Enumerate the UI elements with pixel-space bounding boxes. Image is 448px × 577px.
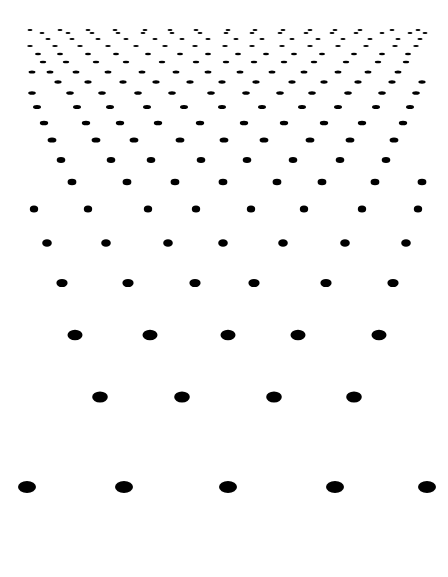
dot <box>306 137 315 142</box>
dot <box>92 137 101 142</box>
dot <box>192 206 200 213</box>
dot <box>143 29 148 31</box>
dot <box>260 137 269 142</box>
dot <box>395 71 402 74</box>
dot <box>197 157 206 163</box>
dot <box>335 71 342 74</box>
dot <box>143 105 151 109</box>
dot <box>189 279 200 287</box>
dot-row <box>30 206 422 213</box>
dot <box>101 239 111 247</box>
dot <box>320 121 328 126</box>
dot <box>249 45 255 47</box>
dot-row <box>40 121 407 126</box>
dot <box>269 71 276 74</box>
dot <box>221 330 236 340</box>
dot <box>168 29 173 31</box>
dot <box>152 38 157 40</box>
dot <box>194 29 199 31</box>
dot <box>63 61 69 64</box>
dot-row <box>27 45 419 47</box>
dot <box>380 32 385 34</box>
dot <box>226 29 231 31</box>
dot <box>170 32 175 34</box>
dot <box>27 45 33 47</box>
dot <box>218 239 228 247</box>
dot <box>133 45 139 47</box>
dot <box>105 71 112 74</box>
dot <box>57 157 66 163</box>
dot <box>106 105 114 109</box>
dot <box>289 38 294 40</box>
dot <box>84 80 91 83</box>
dot <box>154 121 162 126</box>
dot <box>152 80 159 83</box>
dot <box>240 121 248 126</box>
dot <box>423 32 428 34</box>
dot <box>418 80 425 83</box>
dot <box>319 53 325 55</box>
dot <box>307 45 313 47</box>
dot <box>408 32 413 34</box>
dot <box>365 71 372 74</box>
dot <box>326 481 344 493</box>
dot <box>54 80 61 83</box>
dot <box>186 80 193 83</box>
dot <box>90 32 95 34</box>
dot <box>363 45 369 47</box>
dot-row <box>28 91 420 95</box>
dot <box>218 80 225 83</box>
dot-row <box>18 481 436 493</box>
dot <box>351 53 357 55</box>
dot <box>68 179 77 186</box>
dot <box>205 71 212 74</box>
dot <box>123 61 129 64</box>
dot <box>278 32 283 34</box>
dot <box>222 45 228 47</box>
dot <box>243 157 252 163</box>
dot <box>250 32 255 34</box>
dot <box>367 38 372 40</box>
dot <box>42 239 52 247</box>
dot <box>119 80 126 83</box>
dot <box>86 29 91 31</box>
dot <box>130 137 139 142</box>
dot <box>56 279 67 287</box>
dot <box>105 45 111 47</box>
dot <box>333 29 338 31</box>
dot-row <box>56 279 398 287</box>
dot <box>35 53 41 55</box>
dot <box>318 179 327 186</box>
dot <box>315 38 320 40</box>
dot-row <box>35 53 411 55</box>
dot-row <box>28 29 421 31</box>
dot-row <box>29 71 402 74</box>
dot <box>73 71 80 74</box>
dot <box>375 61 381 64</box>
dot <box>52 45 58 47</box>
dot <box>418 179 427 186</box>
dot <box>308 91 316 95</box>
dot <box>69 38 74 40</box>
dot-row <box>92 391 362 402</box>
dot <box>198 32 203 34</box>
dot <box>382 157 391 163</box>
dot <box>273 179 282 186</box>
dot <box>390 137 399 142</box>
dot <box>116 121 124 126</box>
perspective-dot-grid <box>0 0 448 577</box>
dot <box>223 61 229 64</box>
dot <box>30 206 38 213</box>
dot <box>413 45 419 47</box>
dot <box>73 105 81 109</box>
dot <box>358 121 366 126</box>
dot-row <box>40 61 409 64</box>
dot <box>340 38 345 40</box>
dot <box>344 91 352 95</box>
dot <box>298 105 306 109</box>
dot <box>266 391 282 402</box>
dot <box>141 32 146 34</box>
dot-row <box>48 137 399 142</box>
dot <box>242 91 250 95</box>
dot <box>219 481 237 493</box>
